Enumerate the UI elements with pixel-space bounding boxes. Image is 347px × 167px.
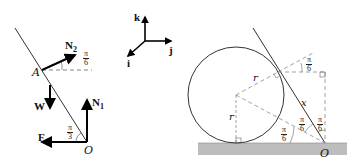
arc-top xyxy=(301,63,302,72)
f-label: F xyxy=(38,132,45,143)
i-axis-label: i xyxy=(127,58,130,69)
angle-label-pi-3: π3 xyxy=(67,124,73,141)
distance-x-label: x xyxy=(301,98,307,108)
point-o-label-left: O xyxy=(84,145,93,156)
right-diagram xyxy=(188,28,347,155)
n2-label: N2 xyxy=(65,40,77,54)
right-angle-bottom xyxy=(236,138,241,143)
k-axis-label: k xyxy=(134,12,140,23)
angle-label-top: π6 xyxy=(306,56,312,73)
angle-label-pi-6: π6 xyxy=(83,50,89,67)
radius-label-left: r xyxy=(229,112,234,122)
angle-label-bottom: π6 xyxy=(281,126,287,143)
angle-label-right: π6 xyxy=(317,116,323,133)
radius-label-top: r xyxy=(253,73,258,83)
j-axis-label: j xyxy=(169,45,173,56)
w-label: W xyxy=(34,101,45,112)
right-angle-corner xyxy=(320,72,325,77)
n2-arrow xyxy=(42,55,75,70)
left-diagram xyxy=(15,28,92,142)
point-a-label: A xyxy=(32,67,40,78)
i-axis xyxy=(128,41,145,56)
arc-mid xyxy=(305,124,313,132)
arc-bottom xyxy=(290,127,294,143)
angle-arc-bottom xyxy=(76,133,81,142)
tangent-line xyxy=(253,28,325,143)
diagram-canvas xyxy=(0,0,347,167)
n1-label: N1 xyxy=(92,97,104,111)
point-o-label-right: O xyxy=(320,148,329,159)
angle-label-mid: π6 xyxy=(299,116,305,133)
